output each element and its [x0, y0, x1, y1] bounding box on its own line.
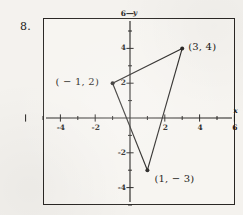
x-tick-label: -4: [56, 123, 65, 132]
x-tick-label: 6: [230, 123, 239, 132]
y-tick-label: 6: [117, 9, 126, 18]
point-label-vertex-c: (1, − 3): [154, 173, 194, 184]
vertex-point-vertex-a: [111, 81, 115, 85]
y-tick-label: -2: [117, 148, 126, 157]
y-axis-label: y: [133, 8, 137, 17]
point-label-vertex-a: ( − 1, 2): [56, 76, 99, 87]
y-tick-label: 2: [117, 78, 126, 87]
x-axis-label: x: [233, 106, 237, 115]
x-tick-label: 4: [196, 123, 205, 132]
x-tick-label: 2: [161, 123, 170, 132]
triangle-edge: [147, 48, 182, 170]
point-label-vertex-b: (3, 4): [188, 41, 216, 52]
vertex-point-vertex-b: [180, 46, 184, 50]
x-tick-label: -2: [91, 123, 100, 132]
y-tick-label: 4: [117, 43, 126, 52]
problem-number: 8.: [20, 20, 31, 33]
y-tick-label: -4: [117, 183, 126, 192]
vertex-point-vertex-c: [145, 168, 149, 172]
worksheet-page: 8. -4-2246642-2-4xy( − 1, 2)(3, 4)(1, − …: [0, 0, 243, 215]
